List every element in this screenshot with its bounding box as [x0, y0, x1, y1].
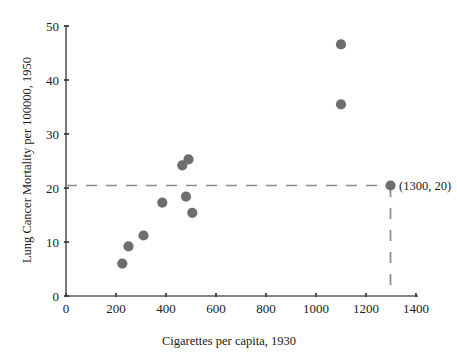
x-tick-label: 800 [256, 301, 276, 316]
y-tick-label: 40 [46, 73, 59, 88]
data-point [336, 39, 346, 49]
highlighted-data-point [385, 180, 395, 190]
y-axis-title: Lung Cancer Mortality per 100000, 1950 [20, 57, 34, 263]
x-tick-labels: 0 200 400 600 800 1000 1200 1400 [63, 301, 429, 316]
y-tick-label: 10 [46, 235, 59, 250]
y-tick-label: 0 [53, 289, 60, 304]
y-tick-label: 30 [46, 127, 59, 142]
data-point [187, 208, 197, 218]
x-tick-label: 1400 [403, 301, 429, 316]
data-point [181, 192, 191, 202]
scatter-plot-figure: 0 200 400 600 800 1000 1200 1400 0 10 20… [0, 0, 457, 364]
data-point [123, 241, 133, 251]
x-tick-label: 1000 [303, 301, 329, 316]
data-point [117, 259, 127, 269]
y-tick-labels: 0 10 20 30 40 50 [46, 19, 59, 304]
data-point [138, 230, 148, 240]
data-points [117, 39, 346, 268]
x-tick-label: 0 [63, 301, 70, 316]
x-tick-label: 1200 [353, 301, 379, 316]
x-axis-title: Cigarettes per capita, 1930 [162, 334, 296, 348]
x-tick-label: 200 [106, 301, 126, 316]
scatter-plot-page: 0 200 400 600 800 1000 1200 1400 0 10 20… [0, 0, 457, 364]
data-point [183, 154, 193, 164]
x-tick-label: 400 [156, 301, 176, 316]
annotation-label: (1300, 20) [399, 179, 451, 193]
y-tick-label: 20 [46, 181, 59, 196]
data-point [336, 99, 346, 109]
data-point [157, 198, 167, 208]
x-tick-label: 600 [206, 301, 226, 316]
y-tick-label: 50 [46, 19, 59, 34]
